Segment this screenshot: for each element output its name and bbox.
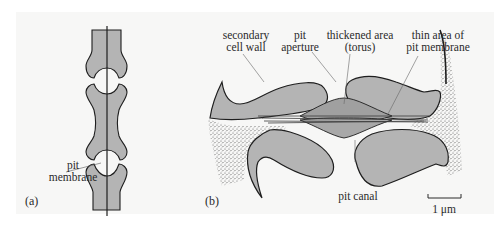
- panel-a-tag: (a): [25, 195, 38, 207]
- label-torus-line2: (torus): [318, 41, 402, 53]
- label-thin-pit-membrane: thin area of pit membrane: [396, 29, 480, 53]
- label-thin-line1: thin area of: [396, 29, 480, 41]
- label-pit-membrane-line2: membrane: [44, 171, 102, 183]
- scale-bar: [428, 194, 461, 198]
- label-torus-line1: thickened area: [318, 29, 402, 41]
- panel-b-tag: (b): [205, 195, 219, 207]
- label-pit-membrane: pit membrane: [44, 159, 102, 183]
- scale-bar-label: 1 μm: [424, 203, 464, 215]
- label-thin-line2: pit membrane: [396, 41, 480, 53]
- label-torus: thickened area (torus): [318, 29, 402, 53]
- label-pit-membrane-line1: pit: [44, 159, 102, 171]
- label-pit-canal: pit canal: [330, 190, 386, 202]
